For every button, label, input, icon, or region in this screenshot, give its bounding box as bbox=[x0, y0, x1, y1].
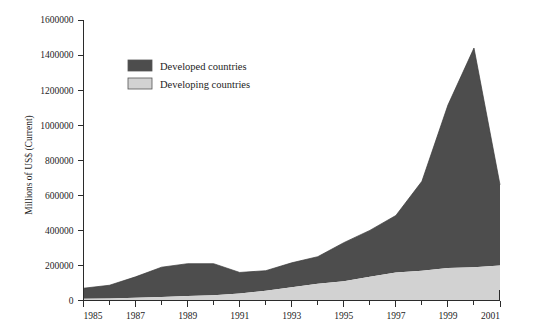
legend-swatch-developed bbox=[128, 60, 152, 71]
y-tick-label: 1600000 bbox=[40, 15, 74, 25]
x-tick-label: 1989 bbox=[178, 311, 197, 321]
legend-label-developed: Developed countries bbox=[160, 61, 247, 72]
x-axis-tick-labels: 198519871989199119931995199719992001 bbox=[84, 311, 501, 321]
x-tick-label: 1999 bbox=[438, 311, 457, 321]
y-tick-label: 800000 bbox=[45, 156, 74, 166]
y-tick-label: 600000 bbox=[45, 191, 74, 201]
y-axis-title: Millions of US$ (Current) bbox=[24, 115, 35, 214]
x-axis-ticks bbox=[84, 301, 501, 307]
x-tick-label: 1997 bbox=[386, 311, 405, 321]
y-axis-ticks bbox=[78, 20, 84, 301]
y-tick-label: 200000 bbox=[45, 261, 74, 271]
y-tick-label: 400000 bbox=[45, 226, 74, 236]
x-tick-label: 1991 bbox=[230, 311, 249, 321]
x-tick-label: 2001 bbox=[481, 311, 500, 321]
x-tick-label: 1987 bbox=[126, 311, 145, 321]
x-tick-label: 1995 bbox=[334, 311, 353, 321]
y-axis-tick-labels: 0200000400000600000800000100000012000001… bbox=[40, 15, 74, 306]
y-tick-label: 1400000 bbox=[40, 50, 74, 60]
legend-swatch-developing bbox=[128, 78, 152, 89]
y-tick-label: 1200000 bbox=[40, 86, 74, 96]
y-tick-label: 1000000 bbox=[40, 121, 74, 131]
x-tick-label: 1993 bbox=[282, 311, 301, 321]
chart-container: 0200000400000600000800000100000012000001… bbox=[0, 0, 537, 336]
y-tick-label: 0 bbox=[69, 296, 74, 306]
stacked-area-chart: 0200000400000600000800000100000012000001… bbox=[0, 0, 537, 336]
x-tick-label: 1985 bbox=[84, 311, 103, 321]
legend-label-developing: Developing countries bbox=[160, 79, 250, 90]
